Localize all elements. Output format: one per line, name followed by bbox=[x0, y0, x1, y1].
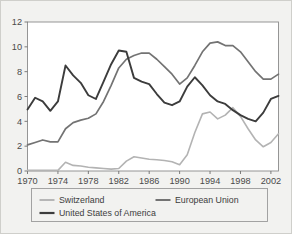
plot-area-background bbox=[28, 22, 279, 171]
x-tick-label: 1990 bbox=[169, 176, 189, 186]
plot-frame bbox=[28, 22, 279, 171]
legend-label: United States of America bbox=[59, 208, 156, 218]
y-tick-label: 10 bbox=[12, 42, 22, 52]
chart-legend: SwitzerlandEuropean UnionUnited States o… bbox=[32, 189, 268, 222]
x-tick-label: 1970 bbox=[17, 176, 37, 186]
x-tick-label: 1994 bbox=[200, 176, 220, 186]
legend-label: Switzerland bbox=[59, 195, 105, 205]
x-axis-ticks: 197019741978198219861990199419982002 bbox=[17, 171, 281, 186]
y-tick-label: 8 bbox=[17, 67, 22, 77]
line-chart: 024681012 197019741978198219861990199419… bbox=[1, 1, 292, 234]
x-tick-label: 1974 bbox=[48, 176, 68, 186]
y-tick-label: 6 bbox=[17, 92, 22, 102]
y-tick-label: 4 bbox=[17, 117, 22, 127]
x-tick-label: 1986 bbox=[139, 176, 159, 186]
x-tick-label: 1998 bbox=[230, 176, 250, 186]
chart-figure: 024681012 197019741978198219861990199419… bbox=[0, 0, 292, 234]
y-tick-label: 12 bbox=[12, 17, 22, 27]
y-tick-label: 2 bbox=[17, 141, 22, 151]
legend-label: European Union bbox=[175, 195, 239, 205]
y-tick-label: 0 bbox=[17, 166, 22, 176]
x-tick-label: 2002 bbox=[261, 176, 281, 186]
x-tick-label: 1982 bbox=[109, 176, 129, 186]
y-axis-ticks: 024681012 bbox=[12, 17, 28, 176]
x-tick-label: 1978 bbox=[78, 176, 98, 186]
